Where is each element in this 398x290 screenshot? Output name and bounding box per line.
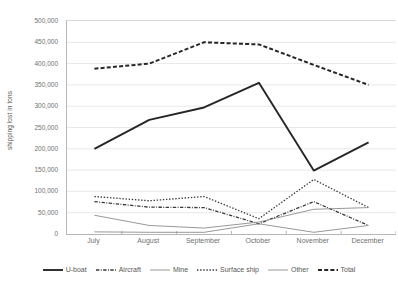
y-axis-tick-label: 450,000 (35, 38, 59, 45)
y-axis-tick-label: 100,000 (35, 187, 59, 194)
plot-area (66, 20, 396, 235)
legend-label: Total (341, 266, 356, 274)
y-axis-tick-label: 50,000 (38, 208, 58, 215)
y-axis-tick-label: 150,000 (35, 166, 59, 173)
legend-item-aircraft[interactable]: Aircraft (96, 266, 141, 274)
legend-item-surface-ship[interactable]: Surface ship (197, 266, 259, 274)
x-axis-tick-label: December (351, 236, 383, 245)
legend-swatch-solid-icon (43, 266, 63, 274)
y-axis-tick-labels: 500,000450,000400,000350,000300,000250,0… (14, 0, 62, 290)
legend-swatch-dashdot-icon (96, 266, 116, 274)
y-axis-tick-label: 250,000 (35, 123, 59, 130)
legend-item-mine[interactable]: Mine (150, 266, 188, 274)
x-axis-tick-label: September (186, 236, 220, 245)
legend-label: Aircraft (119, 266, 141, 274)
plot-series-canvas (67, 21, 396, 234)
y-axis-tick-label: 400,000 (35, 59, 59, 66)
x-axis-tick-label: August (137, 236, 159, 245)
x-axis-tick-label: October (245, 236, 270, 245)
legend-item-other[interactable]: Other (268, 266, 309, 274)
legend-label: Mine (173, 266, 188, 274)
series-line-other (94, 208, 368, 228)
y-axis-tick-label: 350,000 (35, 80, 59, 87)
legend-item-total[interactable]: Total (318, 266, 356, 274)
chart-legend: U-boatAircraftMineSurface shipOtherTotal (0, 262, 398, 278)
legend-label: Other (291, 266, 309, 274)
legend-swatch-solid-icon (268, 266, 288, 274)
series-line-u-boat (94, 83, 368, 171)
x-axis-tick-label: November (297, 236, 329, 245)
y-axis-tick-label: 500,000 (35, 17, 59, 24)
legend-swatch-dashed-icon (318, 266, 338, 274)
legend-swatch-dotted-icon (197, 266, 217, 274)
series-line-aircraft (94, 202, 368, 226)
y-axis-title-label: shipping lost in tons (7, 90, 14, 149)
x-axis-tick-labels: JulyAugustSeptemberOctoberNovemberDecemb… (66, 236, 395, 250)
y-axis-tick-label: 300,000 (35, 102, 59, 109)
y-axis-tick-label: 200,000 (35, 144, 59, 151)
legend-swatch-solid-icon (150, 266, 170, 274)
legend-item-u-boat[interactable]: U-boat (43, 266, 87, 274)
x-axis-tick-label: July (87, 236, 99, 245)
line-chart: shipping lost in tons 500,000450,000400,… (0, 0, 398, 290)
legend-label: Surface ship (220, 266, 259, 274)
y-axis-tick-label: 0 (54, 230, 58, 237)
legend-label: U-boat (66, 266, 87, 274)
